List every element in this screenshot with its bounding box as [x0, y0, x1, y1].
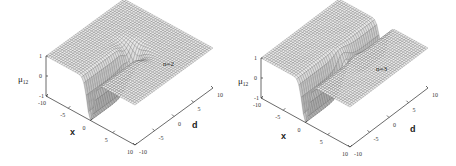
x-tick-label: 5 — [320, 139, 323, 145]
x-tick-label: 5 — [105, 137, 108, 143]
d-tick-label: 10 — [217, 92, 223, 98]
d-tick-mark — [172, 115, 174, 117]
x-tick-label: 0 — [298, 127, 301, 133]
d-tick-label: -10 — [354, 151, 362, 157]
x-tick-label: -5 — [275, 114, 280, 120]
annotation-label: n=2 — [163, 60, 174, 68]
x-tick-label: -10 — [38, 100, 46, 106]
x-tick-label: -5 — [60, 112, 65, 118]
x-axis-label: x — [70, 127, 75, 137]
x-tick-label: 0 — [83, 125, 86, 131]
x-tick-mark — [283, 108, 285, 110]
d-tick-mark — [192, 100, 194, 102]
d-tick-mark — [153, 129, 155, 131]
d-tick-label: -5 — [159, 135, 164, 141]
annotation-label: n=3 — [376, 65, 387, 73]
d-tick-label: 10 — [432, 92, 438, 98]
d-tick-mark — [211, 86, 213, 88]
x-tick-mark — [68, 106, 70, 108]
d-tick-label: 5 — [413, 107, 416, 113]
x-axis-label: x — [281, 131, 286, 141]
d-axis-label: d — [410, 124, 416, 134]
d-tick-mark — [387, 116, 389, 118]
d-tick-label: 0 — [178, 121, 181, 127]
surface-plot-n3: -10-50510-10-50510-101 n=3 x d μ12 — [228, 0, 456, 166]
x-tick-label: 10 — [342, 151, 348, 157]
surface-plot-n2: -10-50510-10-50510-101 n=2 x d μ12 — [0, 0, 228, 166]
surface-plot-svg: -10-50510-10-50510-101 n=3 x d μ12 — [228, 0, 456, 166]
x-tick-label: -10 — [253, 102, 261, 108]
d-tick-label: 5 — [198, 106, 201, 112]
z-tick-label: -1 — [39, 93, 44, 99]
surface-mesh — [261, 0, 428, 122]
z-tick-label: 1 — [254, 55, 257, 61]
z-tick-label: 0 — [254, 75, 257, 81]
d-tick-mark — [368, 130, 370, 132]
x-tick-mark — [328, 133, 330, 135]
d-axis-label: d — [192, 120, 198, 130]
x-tick-mark — [113, 131, 115, 133]
d-tick-label: -10 — [139, 149, 147, 155]
d-tick-label: 0 — [393, 122, 396, 128]
d-tick-label: -5 — [374, 136, 379, 142]
z-tick-label: -1 — [254, 95, 259, 101]
z-tick-label: 1 — [39, 53, 42, 59]
d-tick-mark — [426, 86, 428, 88]
z-axis-label: μ12 — [18, 74, 29, 85]
d-tick-mark — [407, 101, 409, 103]
surface-mesh — [46, 0, 213, 120]
z-axis-label: μ12 — [238, 76, 249, 87]
surface-plot-svg: -10-50510-10-50510-101 n=2 x d μ12 — [0, 0, 228, 166]
z-tick-label: 0 — [39, 73, 42, 79]
x-tick-label: 10 — [127, 149, 133, 155]
